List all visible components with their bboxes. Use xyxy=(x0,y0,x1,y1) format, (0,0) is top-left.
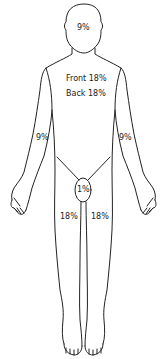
head-percentage-label: 9% xyxy=(77,24,90,32)
torso-right-outline xyxy=(95,48,155,200)
body-diagram: 9% Front 18% Back 18% 9% 9% 1% 18% 18% xyxy=(0,0,167,359)
left-body-side xyxy=(52,110,64,344)
right-hand xyxy=(141,198,156,214)
right-arm-percentage-label: 9% xyxy=(36,134,49,142)
right-leg-inner xyxy=(85,202,87,346)
trunk-front-label: Front 18% xyxy=(66,75,107,83)
left-foot xyxy=(64,344,82,355)
left-leg-percentage-label: 18% xyxy=(91,213,109,221)
right-body-side xyxy=(103,110,115,344)
torso-left-outline xyxy=(12,48,72,200)
left-hand xyxy=(11,198,26,214)
groin-line-left xyxy=(57,157,79,180)
right-foot xyxy=(85,344,103,355)
trunk-back-label: Back 18% xyxy=(66,90,106,98)
body-outline xyxy=(0,0,167,359)
left-arm-percentage-label: 9% xyxy=(119,134,132,142)
right-leg-percentage-label: 18% xyxy=(60,213,78,221)
genital-percentage-label: 1% xyxy=(77,186,90,194)
groin-line-right xyxy=(88,157,110,180)
left-leg-inner xyxy=(80,202,82,346)
